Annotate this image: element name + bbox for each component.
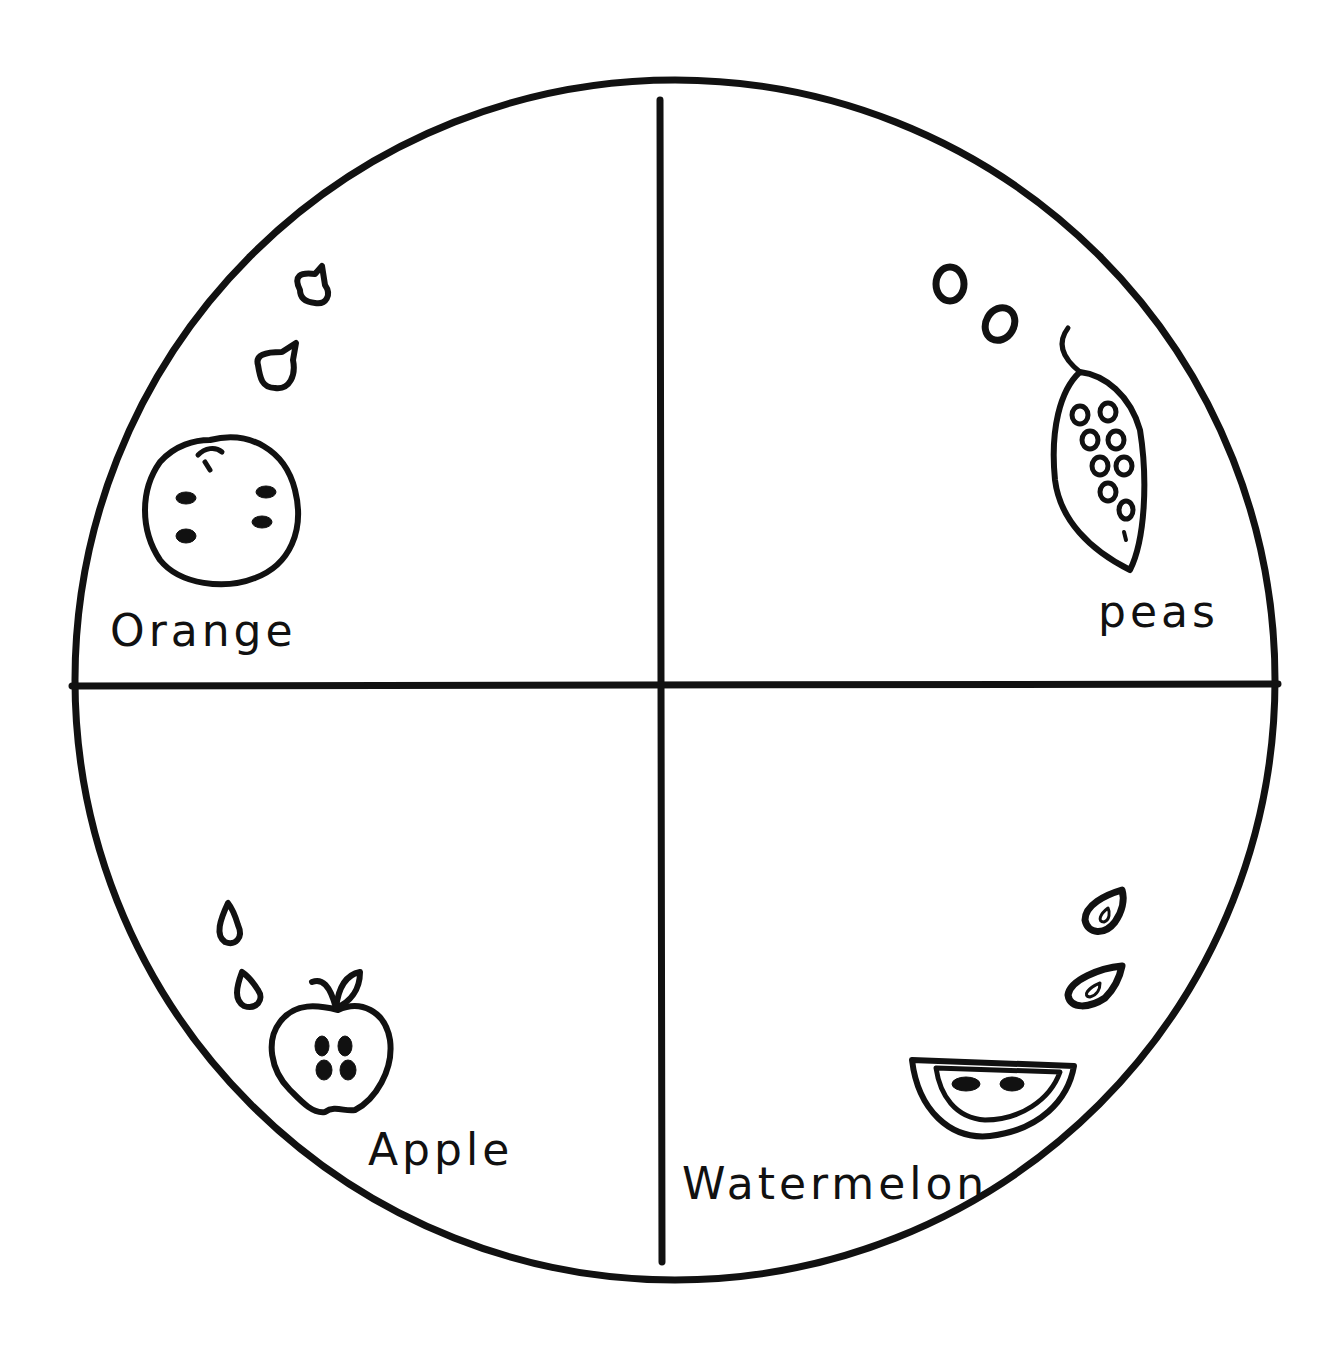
label-watermelon: Watermelon: [682, 1158, 988, 1209]
watermelon-slice-icon: [912, 1060, 1074, 1136]
vertical-divider: [660, 100, 662, 1262]
label-peas: peas: [1098, 586, 1219, 637]
horizontal-divider: [72, 684, 1278, 686]
watermelon-seed-icon: [1085, 890, 1123, 932]
label-orange: Orange: [110, 605, 297, 656]
label-apple: Apple: [368, 1124, 513, 1175]
watermelon-seed-icon: [1068, 966, 1122, 1006]
apple-icon: [272, 972, 391, 1112]
orange-seed-icon: [297, 266, 328, 303]
orange-seed-icon: [257, 343, 296, 388]
pea-icon: [979, 302, 1020, 345]
diagram-canvas: Orange peas Apple Watermelon: [0, 0, 1340, 1350]
orange-icon: [145, 437, 298, 584]
apple-seed-icon: [219, 903, 239, 943]
pea-icon: [936, 267, 964, 301]
pea-pod-icon: [1054, 328, 1145, 570]
apple-seed-icon: [237, 972, 260, 1007]
outer-circle: [75, 80, 1275, 1280]
quadrant-circle: [0, 0, 1340, 1350]
